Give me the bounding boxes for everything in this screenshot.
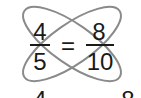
equals-sign: = [58,34,78,58]
left-numerator: 4 [30,20,50,44]
left-denominator: 5 [30,50,50,74]
bottom-left-partial: 4 [30,88,50,98]
right-numerator: 8 [88,20,110,44]
bottom-right-partial: 8 [118,88,138,98]
right-denominator: 10 [86,50,114,74]
